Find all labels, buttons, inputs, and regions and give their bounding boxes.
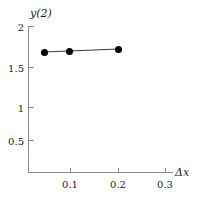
y-axis-tick-label: 1 (0, 104, 24, 114)
data-point-marker (41, 49, 48, 56)
y-axis-line (28, 26, 29, 173)
y-axis-title: y(2) (30, 8, 52, 19)
data-series-line (0, 0, 202, 205)
x-axis-tick-label: 0.3 (150, 180, 180, 190)
y-axis-tick (29, 140, 34, 141)
data-point-marker (66, 48, 73, 55)
figure-caption (0, 196, 202, 205)
x-axis-tick-label: 0.1 (55, 180, 85, 190)
x-axis-tick (165, 168, 166, 173)
chart-figure: y(2) Δx 2 1.5 1 0.5 0.1 0.2 0.3 (0, 0, 202, 205)
y-axis-tick (29, 26, 34, 27)
x-axis-tick (118, 168, 119, 173)
data-point-marker (115, 46, 122, 53)
y-axis-tick-label: 0.5 (0, 137, 24, 147)
x-axis-tick (70, 168, 71, 173)
x-axis-tick-label: 0.2 (103, 180, 133, 190)
y-axis-tick (29, 107, 34, 108)
y-axis-tick-label: 1.5 (0, 64, 24, 74)
x-axis-title: Δx (175, 167, 189, 178)
x-axis-line (28, 172, 173, 173)
y-axis-tick (29, 67, 34, 68)
y-axis-tick-label: 2 (0, 23, 24, 33)
